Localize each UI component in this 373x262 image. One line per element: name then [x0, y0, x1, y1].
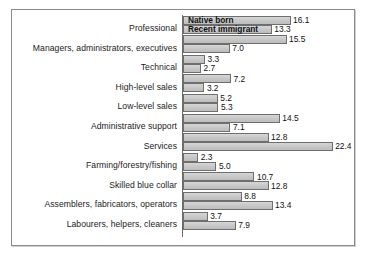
- bar-value-label: 3.7: [210, 212, 222, 221]
- bar-native-born: [183, 133, 269, 142]
- bar-native-born: [183, 114, 280, 123]
- bar-recent-immigrant: [183, 221, 236, 230]
- bar-value-label: 13.4: [275, 201, 291, 210]
- category-label: Farming/forestry/fishing: [86, 161, 177, 170]
- category-label: Services: [144, 142, 177, 151]
- category-label: Skilled blue collar: [109, 181, 177, 190]
- bar-value-label: 7.1: [233, 123, 245, 132]
- bar-value-label: 16.1: [293, 16, 309, 25]
- category-label: Assemblers, fabricators, operators: [44, 200, 177, 209]
- bar-value-label: 12.8: [271, 182, 287, 191]
- bar-recent-immigrant: [183, 142, 333, 151]
- bar-value-label: 3.2: [207, 84, 219, 93]
- bar-native-born: [183, 212, 208, 221]
- bar-recent-immigrant: [183, 201, 273, 210]
- bar-native-born: [183, 172, 254, 181]
- bar-recent-immigrant: [183, 64, 201, 73]
- category-label: Managers, administrators, executives: [33, 44, 177, 53]
- bar-native-born: [183, 74, 231, 83]
- bar-value-label: 22.4: [335, 142, 351, 151]
- bar-native-born: [183, 192, 242, 201]
- category-label: Labourers, helpers, cleaners: [67, 220, 177, 229]
- bar-recent-immigrant: [183, 162, 216, 171]
- bar-native-born: [183, 153, 198, 162]
- bar-value-label: 7.0: [232, 44, 244, 53]
- bar-native-born: [183, 55, 205, 64]
- bar-value-label: 5.3: [221, 103, 233, 112]
- bar-value-label: 2.7: [204, 64, 216, 73]
- bar-value-label: 5.0: [219, 162, 231, 171]
- bar-recent-immigrant: [183, 83, 204, 92]
- category-label: Administrative support: [91, 122, 177, 131]
- bar-value-label: 13.3: [274, 25, 290, 34]
- bar-value-label: 7.9: [238, 221, 250, 230]
- bar-value-label: 7.2: [234, 75, 246, 84]
- bar-value-label: 12.8: [271, 133, 287, 142]
- bar-recent-immigrant: [183, 44, 230, 53]
- category-label: High-level sales: [116, 83, 177, 92]
- plot-area: 16.113.3Professional15.57.0Managers, adm…: [0, 0, 373, 262]
- bar-recent-immigrant: [183, 181, 269, 190]
- category-label: Technical: [141, 63, 177, 72]
- bar-native-born: [183, 94, 218, 103]
- bar-value-label: 15.5: [289, 35, 305, 44]
- bar-value-label: 8.8: [244, 192, 256, 201]
- bar-value-label: 14.5: [282, 114, 298, 123]
- bar-value-label: 2.3: [201, 153, 213, 162]
- bar-recent-immigrant: [183, 123, 230, 132]
- legend-entry-recent-immigrant: Recent immigrant: [188, 25, 258, 34]
- category-label: Low-level sales: [117, 102, 177, 111]
- chart-figure: 16.113.3Professional15.57.0Managers, adm…: [0, 0, 373, 262]
- category-label: Professional: [129, 24, 177, 33]
- bar-recent-immigrant: [183, 103, 218, 112]
